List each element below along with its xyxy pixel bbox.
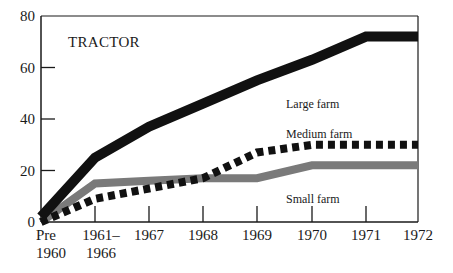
x-tick-label: 1968 [188, 227, 218, 243]
medium-farm-label: Medium farm [286, 127, 353, 141]
y-tick-label: 0 [28, 214, 36, 230]
y-tick-label: 40 [20, 111, 35, 127]
x-tick-label: 1970 [297, 227, 327, 243]
series-labels: Large farmMedium farmSmall farm [286, 97, 353, 206]
large-farm-label: Large farm [286, 97, 340, 111]
x-tick-label: Pre [36, 227, 56, 243]
small-farm-line [41, 165, 418, 222]
x-tick-label: 1969 [242, 227, 272, 243]
x-tick-label-line2: 1966 [86, 245, 117, 261]
x-tick-label: 1961– [82, 227, 120, 243]
chart-title: TRACTOR [68, 34, 140, 50]
series-layer [41, 37, 418, 222]
x-tick-label: 1972 [403, 227, 433, 243]
y-tick-label: 60 [20, 60, 35, 76]
x-tick-label: 1971 [351, 227, 381, 243]
y-tick-label: 80 [20, 8, 35, 24]
x-tick-label-line2: 1960 [36, 245, 66, 261]
tractor-line-chart: 020406080Pre19601961–1966196719681969197… [0, 0, 453, 273]
large-farm-line [41, 37, 418, 217]
y-tick-label: 20 [20, 163, 35, 179]
small-farm-label: Small farm [286, 192, 340, 206]
x-tick-label: 1967 [134, 227, 165, 243]
